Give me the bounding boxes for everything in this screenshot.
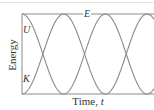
potential-energy-curve — [22, 14, 154, 94]
x-axis-label-variable: t — [101, 95, 104, 107]
x-axis-label: Time, t — [72, 95, 103, 107]
kinetic-energy-curve — [22, 14, 154, 94]
y-axis-label: Energy — [6, 39, 18, 71]
x-axis-label-text: Time, — [72, 95, 100, 107]
total-energy-label: E — [83, 9, 91, 19]
kinetic-energy-label: K — [23, 74, 30, 84]
energy-plot — [0, 0, 154, 110]
potential-energy-label: U — [23, 25, 30, 35]
